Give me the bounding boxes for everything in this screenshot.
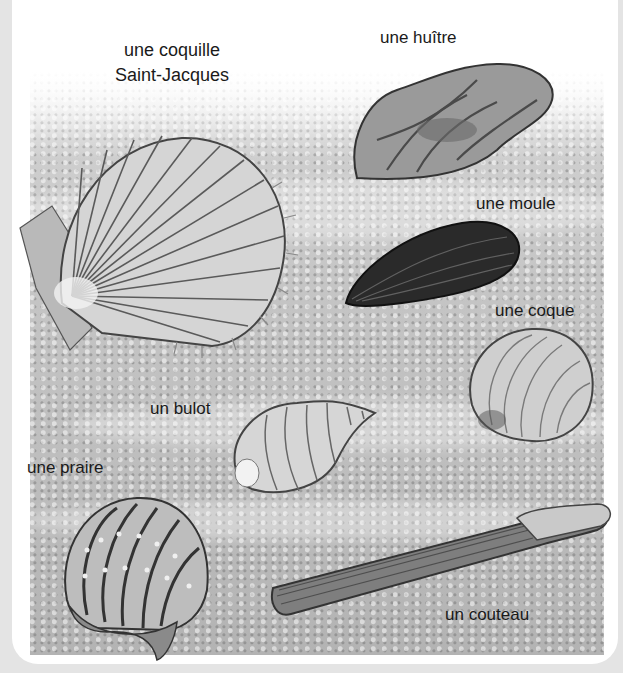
razor-clam-image (267, 500, 617, 620)
clam-shell-image (57, 490, 217, 664)
whelk-shell-image (227, 385, 382, 500)
label-razor-clam: un couteau (445, 604, 529, 626)
label-whelk: un bulot (150, 398, 211, 420)
label-clam: une praire (27, 457, 104, 479)
label-scallop-line1: une coquille (67, 38, 277, 63)
label-cockle: une coque (495, 300, 574, 322)
scallop-shell-image (12, 128, 302, 378)
label-scallop-line2: Saint-Jacques (67, 63, 277, 88)
illustration-card: une coquille Saint-Jacques une huître un… (12, 0, 618, 664)
mussel-shell-image (342, 215, 532, 310)
label-scallop: une coquille Saint-Jacques (67, 38, 277, 88)
label-mussel: une moule (476, 193, 555, 215)
oyster-shell-image (347, 60, 567, 185)
label-oyster: une huître (380, 27, 457, 49)
cockle-shell-image (462, 325, 602, 445)
